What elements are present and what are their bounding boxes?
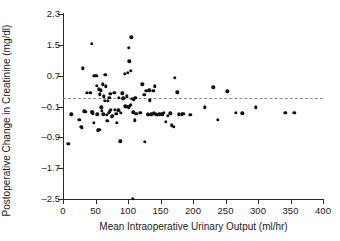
y-axis-tick-label: –2.5: [42, 194, 61, 204]
data-point: [104, 85, 107, 88]
data-point: [173, 76, 176, 79]
data-point: [153, 85, 156, 88]
x-axis-tick: [291, 199, 292, 204]
data-point: [203, 106, 206, 109]
data-point: [169, 112, 172, 115]
data-point: [133, 119, 136, 122]
data-point: [143, 140, 146, 143]
data-point: [94, 74, 97, 77]
data-point: [139, 111, 142, 114]
data-point: [109, 108, 112, 111]
x-axis-tick-label: 0: [60, 206, 65, 216]
x-axis-tick: [193, 199, 194, 204]
data-point: [78, 118, 81, 121]
plot-area: –2.5–1.7–0.9–0.10.71.52.3 05010015020025…: [63, 14, 323, 199]
data-point: [148, 99, 151, 102]
data-point: [80, 126, 83, 129]
data-point: [70, 113, 73, 116]
data-point: [176, 91, 179, 94]
data-point: [216, 118, 219, 121]
x-axis-tick-label: 50: [90, 206, 101, 216]
data-point: [131, 197, 134, 200]
data-point: [211, 86, 214, 89]
data-point: [141, 82, 144, 85]
x-axis-tick-label: 100: [120, 206, 136, 216]
data-point: [120, 92, 123, 95]
data-point: [129, 103, 132, 106]
data-point: [98, 128, 101, 131]
data-point: [164, 120, 167, 123]
data-point: [111, 114, 114, 117]
x-axis-tick: [323, 199, 324, 204]
data-point: [81, 67, 84, 70]
reference-line: [63, 98, 323, 99]
data-point: [99, 89, 102, 92]
data-point: [106, 99, 109, 102]
scatter-plot-figure: –2.5–1.7–0.9–0.10.71.52.3 05010015020025…: [0, 0, 340, 241]
data-point: [90, 42, 93, 45]
data-point: [234, 111, 237, 114]
data-point: [107, 96, 110, 99]
x-axis-tick-label: 200: [185, 206, 201, 216]
x-axis-tick: [258, 199, 259, 204]
data-point: [128, 60, 131, 63]
y-axis-tick-label: 2.3: [47, 9, 60, 19]
x-axis-title: Mean Intraoperative Urinary Output (ml/h…: [63, 222, 324, 232]
data-point: [133, 96, 136, 99]
y-axis-title-wrapper: Postoperative Change in Creatinine (mg/d…: [2, 0, 16, 213]
y-axis-tick-label: –0.9: [42, 133, 61, 143]
data-point: [172, 125, 175, 128]
x-axis-tick: [161, 199, 162, 204]
data-point: [127, 46, 130, 49]
data-point: [148, 89, 151, 92]
data-point: [129, 69, 132, 72]
data-point: [152, 89, 155, 92]
data-point: [115, 112, 118, 115]
data-point: [104, 73, 107, 76]
data-point: [96, 113, 99, 116]
y-axis-tick-label: –1.7: [42, 163, 61, 173]
data-point: [115, 121, 118, 124]
x-axis-tick-label: 150: [153, 206, 169, 216]
data-point: [226, 90, 229, 93]
data-point: [92, 121, 95, 124]
data-point: [109, 92, 112, 95]
data-point: [119, 111, 122, 114]
data-point: [118, 139, 121, 142]
x-axis-tick-label: 250: [218, 206, 234, 216]
data-point: [254, 106, 257, 109]
data-point: [66, 142, 69, 145]
x-axis-tick-label: 350: [283, 206, 299, 216]
data-point: [182, 112, 185, 115]
data-point: [130, 35, 133, 38]
data-point: [89, 91, 92, 94]
y-axis-tick-label: 0.7: [47, 71, 60, 81]
data-point: [117, 96, 120, 99]
data-point: [105, 119, 108, 122]
x-axis-tick: [96, 199, 97, 204]
data-point: [284, 111, 287, 114]
x-axis-tick-label: 300: [250, 206, 266, 216]
y-axis-tick-label: 1.5: [47, 40, 60, 50]
y-axis-title: Postoperative Change in Creatinine (mg/d…: [2, 0, 16, 241]
y-axis-tick-label: –0.1: [42, 102, 61, 112]
data-point: [189, 113, 192, 116]
data-point: [162, 111, 165, 114]
x-axis-tick: [63, 199, 64, 204]
x-axis-tick: [226, 199, 227, 204]
data-point: [98, 92, 101, 95]
data-point: [293, 111, 296, 114]
data-point: [143, 93, 146, 96]
x-axis-tick: [128, 199, 129, 204]
x-axis-tick-label: 400: [315, 206, 331, 216]
data-point: [84, 110, 87, 113]
data-point: [241, 112, 244, 115]
data-point: [91, 112, 94, 115]
data-point: [113, 91, 116, 94]
